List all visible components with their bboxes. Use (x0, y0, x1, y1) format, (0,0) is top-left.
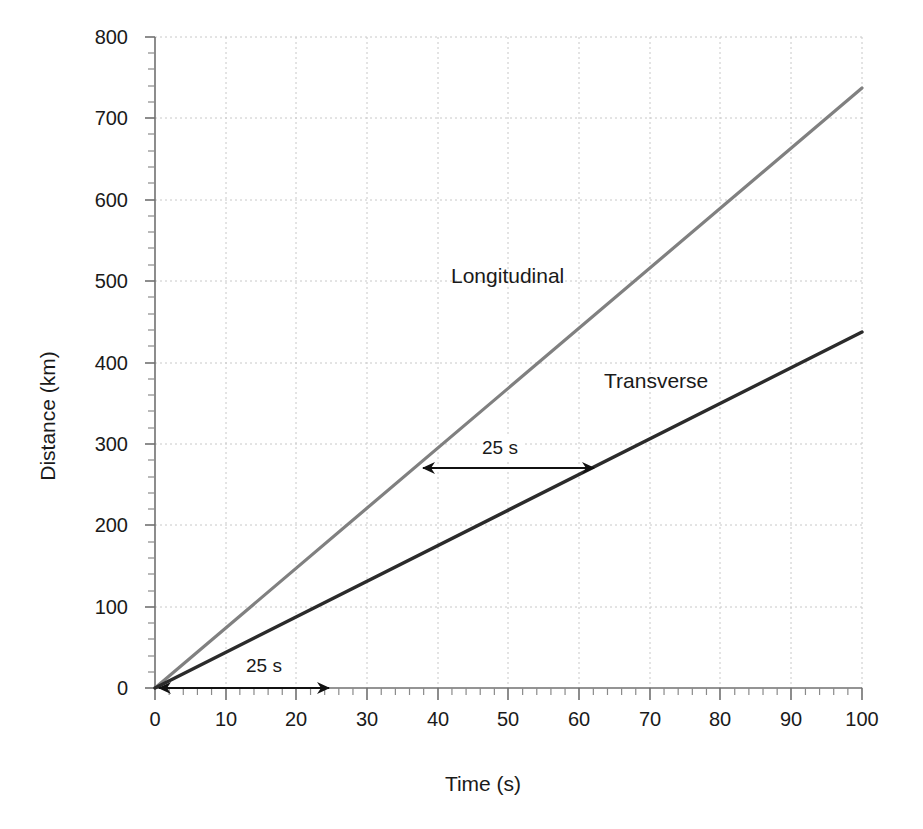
x-axis-major-ticks (155, 688, 862, 700)
x-tick-label-60: 60 (544, 708, 614, 731)
annotation-label-upper: 25 s (478, 437, 522, 459)
y-tick-label-300: 300 (58, 433, 128, 456)
x-tick-label-20: 20 (261, 708, 331, 731)
annotation-label-lower: 25 s (242, 655, 286, 677)
y-axis-major-ticks (145, 37, 155, 688)
x-axis-title: Time (s) (403, 772, 563, 796)
series-label-longitudinal: Longitudinal (451, 264, 564, 288)
x-tick-label-80: 80 (685, 708, 755, 731)
x-tick-label-30: 30 (332, 708, 402, 731)
y-tick-label-600: 600 (58, 189, 128, 212)
x-tick-label-70: 70 (615, 708, 685, 731)
y-tick-label-200: 200 (58, 514, 128, 537)
y-tick-label-500: 500 (58, 270, 128, 293)
plot-area (0, 0, 923, 829)
series-line-transverse (155, 332, 862, 688)
x-tick-label-10: 10 (191, 708, 261, 731)
x-tick-label-40: 40 (403, 708, 473, 731)
y-tick-label-800: 800 (58, 26, 128, 49)
y-axis-title: Distance (km) (36, 306, 60, 526)
y-tick-label-700: 700 (58, 107, 128, 130)
series-label-transverse: Transverse (604, 369, 708, 393)
y-tick-label-400: 400 (58, 352, 128, 375)
x-tick-label-0: 0 (120, 708, 190, 731)
x-tick-label-90: 90 (756, 708, 826, 731)
y-tick-label-0: 0 (58, 677, 128, 700)
y-tick-label-100: 100 (58, 596, 128, 619)
x-tick-label-100: 100 (827, 708, 897, 731)
x-tick-label-50: 50 (473, 708, 543, 731)
chart-figure: 800 700 600 500 400 300 200 100 0 0 10 2… (0, 0, 923, 829)
